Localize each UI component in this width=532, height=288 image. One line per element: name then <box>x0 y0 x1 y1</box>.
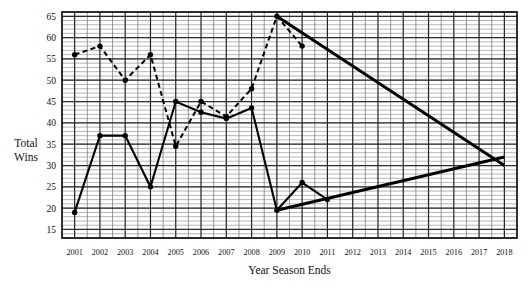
y-axis-tick-label: 15 <box>47 225 57 235</box>
x-axis-tick-label: 2011 <box>319 248 335 257</box>
x-axis-tick-label: 2010 <box>294 248 310 257</box>
data-point-marker <box>72 52 77 57</box>
x-axis-tick-label: 2003 <box>117 248 133 257</box>
data-point-marker <box>274 208 279 213</box>
x-axis-tick-label: 2001 <box>66 248 82 257</box>
y-axis-tick-label: 65 <box>47 12 57 22</box>
y-axis-tick-label: 25 <box>47 182 57 192</box>
x-axis-tick-label: 2012 <box>345 248 361 257</box>
y-axis-tick-label: 55 <box>47 54 57 64</box>
data-point-marker <box>249 86 254 91</box>
y-axis-tick-label: 35 <box>47 140 57 150</box>
x-axis-tick-label: 2017 <box>471 248 487 257</box>
y-axis-tick-label: 40 <box>47 118 57 128</box>
data-point-marker <box>299 180 304 185</box>
data-point-marker <box>198 110 203 115</box>
data-point-marker <box>325 197 330 202</box>
x-axis-tick-label: 2018 <box>496 248 512 257</box>
data-point-marker <box>249 105 254 110</box>
y-axis-tick-label: 60 <box>47 33 57 43</box>
x-axis-tick-label: 2005 <box>168 248 184 257</box>
y-axis-tick-label: 45 <box>47 97 57 107</box>
x-axis-tick-label: 2007 <box>218 248 234 257</box>
y-axis-title-line2: Wins <box>14 151 38 163</box>
data-point-marker <box>72 210 77 215</box>
x-axis-tick-label: 2016 <box>446 248 462 257</box>
data-point-marker <box>173 144 178 149</box>
x-axis-tick-label: 2009 <box>269 248 285 257</box>
y-axis-tick-label: 50 <box>47 76 57 86</box>
chart-container: 1520253035404550556065 20012002200320042… <box>0 0 532 288</box>
x-axis-title: Year Season Ends <box>248 264 331 276</box>
data-point-marker <box>148 184 153 189</box>
y-axis-tick-label: 20 <box>47 204 57 214</box>
data-point-marker <box>122 133 127 138</box>
data-point-marker <box>198 99 203 104</box>
data-point-marker <box>97 43 102 48</box>
x-axis-tick-label: 2008 <box>243 248 259 257</box>
y-axis-title-line1: Total <box>14 137 37 149</box>
x-axis-tick-label: 2015 <box>420 248 436 257</box>
total-wins-line-chart: 1520253035404550556065 20012002200320042… <box>0 0 532 288</box>
x-axis-tick-label: 2006 <box>193 248 209 257</box>
data-point-marker <box>224 114 229 119</box>
data-point-marker <box>97 133 102 138</box>
data-point-marker <box>299 43 304 48</box>
x-axis-tick-label: 2014 <box>395 248 411 257</box>
data-point-marker <box>122 78 127 83</box>
x-axis-tick-label: 2004 <box>142 248 158 257</box>
data-point-marker <box>274 14 279 19</box>
x-axis-tick-label: 2013 <box>370 248 386 257</box>
x-axis-tick-label: 2002 <box>92 248 108 257</box>
y-axis-tick-label: 30 <box>47 161 57 171</box>
data-point-marker <box>173 99 178 104</box>
data-point-marker <box>148 52 153 57</box>
